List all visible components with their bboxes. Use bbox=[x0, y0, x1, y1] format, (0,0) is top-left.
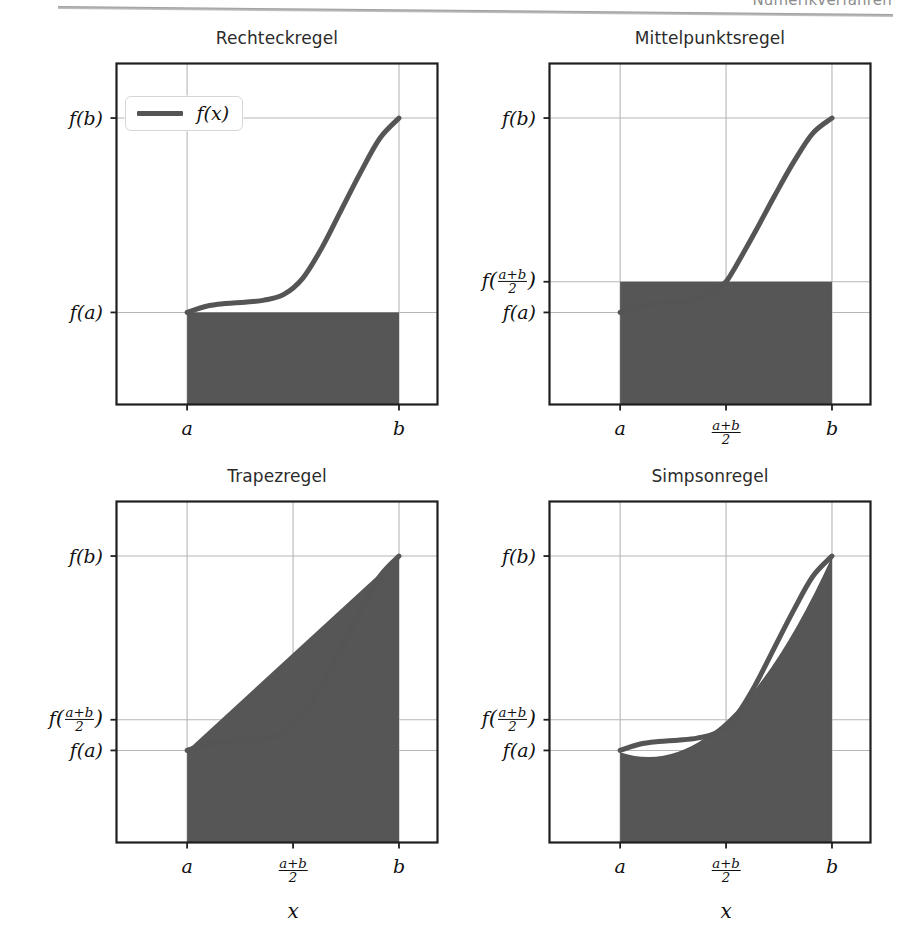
panel-title: Mittelpunktsregel bbox=[549, 28, 871, 48]
y-tick-label: f(a) bbox=[503, 303, 536, 322]
legend-label: f(x) bbox=[197, 104, 230, 123]
x-tick-label: a bbox=[614, 419, 625, 438]
x-tick-label: b bbox=[826, 857, 838, 876]
figure-quadrature-rules: Rechteckregel f(b)f(a)abf(x) Mittelpunkt… bbox=[0, 0, 897, 937]
x-axis-label: x bbox=[287, 901, 298, 921]
x-tick-label: a+b2 bbox=[278, 857, 309, 885]
legend-swatch bbox=[137, 111, 183, 116]
legend[interactable]: f(x) bbox=[125, 96, 244, 131]
fill-region-rectangle-left-endpoint bbox=[187, 312, 399, 404]
y-tick-label: f(b) bbox=[69, 109, 103, 128]
y-tick-label: f(b) bbox=[502, 547, 536, 566]
curve-fx bbox=[187, 118, 399, 312]
panel-title: Simpsonregel bbox=[549, 466, 871, 486]
y-tick-label: f(a+b2) bbox=[482, 706, 536, 734]
panel-title: Trapezregel bbox=[116, 466, 438, 486]
plot-area bbox=[549, 501, 871, 843]
x-tick-label: b bbox=[393, 419, 405, 438]
x-tick-label: a+b2 bbox=[711, 419, 742, 447]
panel-mittelpunktsregel: Mittelpunktsregel f(b)f(a+b2)f(a)aa+b2b bbox=[549, 28, 871, 436]
y-tick-label: f(a+b2) bbox=[49, 706, 103, 734]
panel-rechteckregel: Rechteckregel f(b)f(a)abf(x) bbox=[116, 28, 438, 436]
y-tick-label: f(a) bbox=[503, 741, 536, 760]
y-tick-label: f(b) bbox=[502, 109, 536, 128]
y-tick-label: f(a+b2) bbox=[482, 268, 536, 296]
panel-title: Rechteckregel bbox=[116, 28, 438, 48]
x-tick-label: a bbox=[181, 857, 192, 876]
fill-region-rectangle-midpoint bbox=[620, 282, 832, 405]
y-tick-label: f(a) bbox=[70, 741, 103, 760]
plot-area bbox=[116, 501, 438, 843]
panel-simpsonregel: Simpsonregel f(b)f(a+b2)f(a)aa+b2bx bbox=[549, 466, 871, 906]
panel-trapezregel: Trapezregel f(b)f(a+b2)f(a)aa+b2bx bbox=[116, 466, 438, 906]
x-tick-label: a bbox=[181, 419, 192, 438]
y-tick-label: f(a) bbox=[70, 303, 103, 322]
x-tick-label: b bbox=[826, 419, 838, 438]
x-tick-label: a+b2 bbox=[711, 857, 742, 885]
x-axis-label: x bbox=[720, 901, 731, 921]
plot-area bbox=[549, 63, 871, 405]
y-tick-label: f(b) bbox=[69, 547, 103, 566]
x-tick-label: b bbox=[393, 857, 405, 876]
x-tick-label: a bbox=[614, 857, 625, 876]
